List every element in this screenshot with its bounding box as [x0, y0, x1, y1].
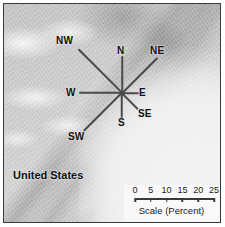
scale-caption: Scale (Percent) — [124, 205, 219, 216]
direction-label-n: N — [117, 46, 124, 56]
scale-tick-mark-0 — [134, 198, 136, 202]
direction-label-e: E — [139, 88, 146, 98]
scale-tick-label-25: 25 — [209, 185, 219, 196]
direction-label-sw: SW — [68, 132, 85, 142]
scale-tick-labels: 0510152025 — [124, 185, 219, 196]
scale-tick-mark-25 — [213, 198, 215, 202]
scale-tick-mark-5 — [150, 198, 152, 202]
scale-tick-label-0: 0 — [132, 185, 137, 196]
scale-tick-mark-10 — [166, 198, 168, 202]
wind-rose-ray-n — [121, 56, 123, 93]
scale-tick-label-10: 10 — [162, 185, 172, 196]
wind-rose-ray-nw — [78, 49, 123, 94]
map-frame: NWNNEESESSWW United States 0510152025 Sc… — [3, 3, 221, 223]
place-label-united-states: United States — [13, 169, 83, 181]
scale-legend: 0510152025 Scale (Percent) — [124, 185, 219, 221]
scale-tick-label-5: 5 — [148, 185, 153, 196]
map-figure: NWNNEESESSWW United States 0510152025 Sc… — [0, 0, 225, 227]
scale-tick-label-20: 20 — [193, 185, 203, 196]
direction-label-se: SE — [138, 109, 152, 119]
wind-rose-ray-sw — [83, 92, 122, 131]
wind-rose-ray-s — [121, 93, 123, 119]
wind-rose-ray-se — [121, 92, 138, 109]
scale-tick-mark-20 — [197, 198, 199, 202]
scale-axis-line — [135, 198, 214, 200]
scale-tick-label-15: 15 — [177, 185, 187, 196]
scale-tick-mark-15 — [182, 198, 184, 202]
direction-label-nw: NW — [56, 36, 73, 46]
wind-rose-ray-w — [79, 92, 122, 94]
direction-label-s: S — [118, 118, 125, 128]
direction-label-ne: NE — [150, 46, 164, 56]
direction-label-w: W — [66, 88, 76, 98]
